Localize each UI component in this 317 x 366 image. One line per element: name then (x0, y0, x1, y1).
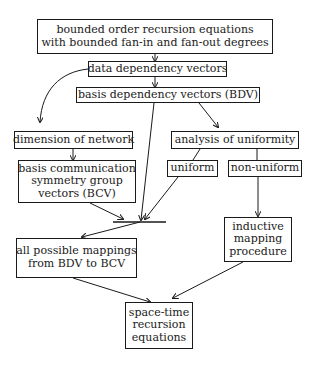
edge-junction-to-mappings (82, 222, 140, 237)
edge-mappings-to-spacetime (73, 278, 150, 302)
node-basis-communication-vectors: basis communication symmetry group vecto… (18, 160, 136, 203)
node-non-uniform: non-uniform (228, 160, 302, 177)
node-recursion-equations: bounded order recursion equations with b… (37, 19, 273, 54)
node-text: non-uniform (231, 162, 300, 175)
edge-bdv-to-analysis (199, 103, 218, 127)
node-dimension-of-network: dimension of network (14, 131, 133, 149)
node-text: with bounded fan-in and fan-out degrees (41, 37, 268, 50)
node-uniform: uniform (167, 160, 218, 177)
node-text: equations (132, 332, 186, 345)
node-text: data dependency vectors (88, 63, 228, 76)
edge-bdv-to-junction (141, 103, 154, 220)
flow-diagram: bounded order recursion equations with b… (0, 0, 317, 366)
edge-analysis-to-uniform (193, 149, 200, 160)
node-text: symmetry group (31, 175, 123, 188)
node-text: uniform (170, 162, 214, 175)
edge-uniform-to-junction (145, 177, 178, 219)
node-text: vectors (BCV) (38, 188, 116, 201)
node-text: bounded order recursion equations (56, 24, 253, 37)
node-analysis-of-uniformity: analysis of uniformity (171, 131, 299, 149)
node-text: basis dependency vectors (BDV) (78, 89, 258, 102)
node-text: recursion (132, 319, 185, 332)
node-text: procedure (229, 246, 287, 259)
node-text: mapping (234, 233, 283, 246)
node-inductive-mapping-procedure: inductive mapping procedure (224, 217, 292, 262)
node-data-dependency-vectors: data dependency vectors (88, 61, 227, 77)
node-all-possible-mappings: all possible mappings from BDV to BCV (16, 238, 137, 278)
node-basis-dependency-vectors: basis dependency vectors (BDV) (76, 87, 260, 103)
edge-inductive-to-spacetime (173, 262, 243, 298)
node-space-time-recursion-equations: space-time recursion equations (125, 302, 193, 349)
node-text: analysis of uniformity (175, 134, 296, 147)
edge-bcv-to-junction (90, 203, 123, 219)
node-text: from BDV to BCV (28, 258, 125, 271)
node-text: dimension of network (13, 134, 134, 147)
